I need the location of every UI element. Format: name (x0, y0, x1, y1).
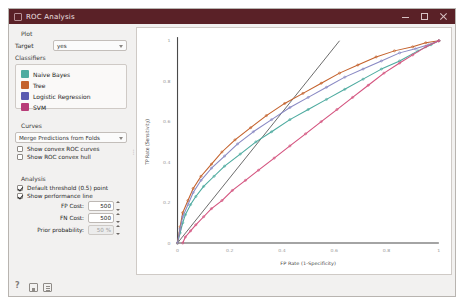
window-controls (401, 9, 453, 24)
roc-curve-logistic-regression (178, 41, 439, 243)
target-combobox[interactable]: yes (53, 40, 127, 51)
curves-group: Curves Merge Predictions from Folds Show… (15, 120, 127, 162)
plot-group-title: Plot (21, 30, 127, 37)
close-icon[interactable] (439, 12, 448, 21)
y-tick-label: 0.2 (163, 200, 171, 205)
chevron-down-icon (119, 45, 123, 48)
classifiers-label: Classifiers (15, 54, 127, 61)
checkbox-box (17, 146, 23, 152)
checkbox-show-performance-line[interactable]: Show performance line (17, 193, 127, 199)
list-item[interactable]: Naive Bayes (21, 69, 121, 79)
color-swatch-svm (21, 103, 29, 111)
fp-cost-spinner[interactable]: 500 (88, 201, 114, 211)
list-item[interactable]: Tree (21, 80, 121, 90)
x-axis-title: FP Rate (1-Specificity) (280, 261, 336, 266)
color-swatch-tree (21, 81, 29, 89)
title-bar: ROC Analysis (9, 9, 455, 24)
checkbox-box (17, 193, 23, 199)
stepper-up-icon[interactable] (116, 201, 120, 203)
color-swatch-naive-bayes (21, 70, 29, 78)
prior-probability-spinner: 50 % (88, 225, 114, 235)
window-body: Plot Target yes Classifiers Naive Bayes (9, 24, 455, 278)
prior-probability-row: Prior probability: 50 % (15, 225, 127, 235)
window-icon (14, 13, 22, 21)
roc-curve-tree (178, 41, 439, 243)
x-tick-label: 0 (176, 248, 179, 253)
y-tick-label: 1 (167, 39, 170, 44)
roc-curve-svm (183, 41, 439, 243)
roc-plot: 00.20.40.60.8100.20.40.60.81FP Rate (1-S… (136, 27, 452, 275)
x-tick-label: 0.4 (278, 248, 286, 253)
fn-cost-spinner[interactable]: 500 (88, 213, 114, 223)
checkbox-default-threshold[interactable]: Default threshold (0.5) point (17, 185, 127, 191)
classifier-label: SVM (33, 104, 46, 111)
stepper-down-icon (116, 233, 120, 235)
chevron-down-icon (119, 137, 123, 140)
report-icon[interactable] (43, 283, 52, 292)
stepper-down-icon[interactable] (116, 221, 120, 223)
checkbox-show-convex-roc-curves[interactable]: Show convex ROC curves (17, 146, 127, 152)
control-sidebar: Plot Target yes Classifiers Naive Bayes (9, 24, 131, 278)
curves-group-title: Curves (21, 122, 127, 129)
roc-point (438, 40, 440, 42)
fn-cost-stepper[interactable] (115, 213, 121, 223)
plot-group: Plot Target yes Classifiers Naive Bayes (15, 28, 127, 109)
help-icon[interactable] (15, 283, 24, 292)
fp-cost-stepper[interactable] (115, 201, 121, 211)
prior-probability-label: Prior probability: (37, 227, 84, 233)
checkbox-label: Show convex ROC curves (27, 146, 99, 152)
target-label: Target (15, 42, 53, 49)
x-tick-label: 0.2 (226, 248, 234, 253)
fp-cost-label: FP Cost: (61, 203, 84, 209)
minimize-icon[interactable] (401, 12, 410, 21)
analysis-group: Analysis Default threshold (0.5) point S… (15, 173, 127, 237)
stepper-up-icon (116, 225, 120, 227)
target-row: Target yes (15, 40, 127, 51)
save-icon[interactable] (29, 283, 38, 292)
checkbox-label: Default threshold (0.5) point (27, 185, 108, 191)
checkbox-box (17, 185, 23, 191)
checkbox-label: Show ROC convex hull (27, 154, 91, 160)
checkbox-box (17, 154, 23, 160)
checkbox-label: Show performance line (27, 193, 93, 199)
status-bar (9, 278, 455, 296)
list-item[interactable]: SVM (21, 102, 121, 112)
merge-value: Merge Predictions from Folds (19, 135, 100, 141)
y-tick-label: 0.6 (163, 120, 171, 125)
checkbox-show-roc-convex-hull[interactable]: Show ROC convex hull (17, 154, 127, 160)
y-axis-title: TP Rate (Sensitivity) (145, 119, 150, 166)
stepper-up-icon[interactable] (116, 213, 120, 215)
classifier-label: Logistic Regression (33, 93, 91, 100)
target-value: yes (57, 43, 67, 49)
window-title: ROC Analysis (26, 13, 75, 21)
fn-cost-label: FN Cost: (60, 215, 84, 221)
stepper-down-icon[interactable] (116, 209, 120, 211)
prior-probability-value: 50 % (97, 227, 111, 233)
analysis-group-title: Analysis (21, 175, 127, 182)
roc-curve-naive-bayes (178, 41, 439, 243)
roc-analysis-window: ROC Analysis Plot Target yes Classifiers (8, 8, 456, 297)
list-item[interactable]: Logistic Regression (21, 91, 121, 101)
y-tick-label: 0.8 (163, 79, 171, 84)
y-tick-label: 0.4 (163, 160, 171, 165)
merge-combobox[interactable]: Merge Predictions from Folds (15, 132, 127, 143)
fp-cost-row: FP Cost: 500 (15, 201, 127, 211)
color-swatch-logistic-regression (21, 92, 29, 100)
x-tick-label: 0.6 (331, 248, 339, 253)
fp-cost-value: 500 (100, 203, 111, 209)
classifier-label: Tree (33, 82, 46, 89)
fn-cost-value: 500 (100, 215, 111, 221)
roc-plot-canvas: 00.20.40.60.8100.20.40.60.81FP Rate (1-S… (137, 28, 451, 274)
maximize-icon[interactable] (420, 12, 429, 21)
prior-probability-stepper (115, 225, 121, 235)
x-tick-label: 1 (437, 248, 440, 253)
performance-line (178, 41, 340, 243)
classifiers-list[interactable]: Naive Bayes Tree Logistic Regression SVM (15, 64, 127, 109)
y-tick-label: 0 (167, 241, 170, 246)
x-tick-label: 0.8 (383, 248, 391, 253)
classifier-label: Naive Bayes (33, 71, 70, 78)
fn-cost-row: FN Cost: 500 (15, 213, 127, 223)
